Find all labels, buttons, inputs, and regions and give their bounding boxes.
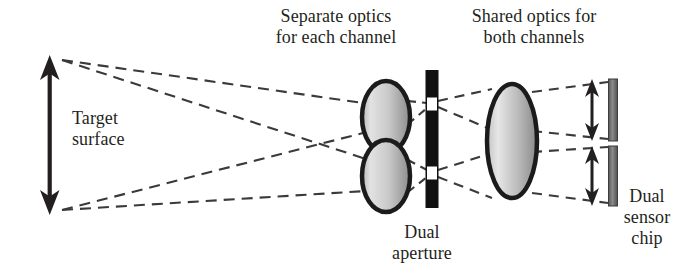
ray-shared-lens-to-sensor-lower-top [532,147,608,152]
ray-slit-upper-to-shared-lens-mid [438,107,492,130]
ray-top-to-upper-lens-top [62,60,363,103]
sensor-extent-arrow-lower [585,146,599,206]
sensor-upper-arrow-shaft [591,86,594,134]
sensor-lower-arrow-shaft [591,153,594,199]
label-target-surface: Target surface [72,108,192,150]
ray-bottom-to-lower-lens-bottom [62,191,366,210]
separate-optics-lens-group [362,81,410,212]
optical-ray-diagram: Separate optics for each channel Shared … [0,0,682,279]
target-surface-arrow [40,55,60,215]
aperture-slit-lower [427,166,438,180]
target-arrow-shaft [48,64,52,206]
ray-bundle-shared-lens-to-sensor [532,82,608,203]
ray-slit-lower-to-shared-lens-mid [438,153,492,170]
ray-slit-upper-to-shared-lens-top [438,89,492,101]
ray-shared-lens-to-sensor-lower-bottom [532,193,608,203]
aperture-slit-upper [427,97,438,111]
ray-slit-lower-to-shared-lens-bottom [438,177,492,198]
ray-shared-lens-to-sensor-upper-bottom [532,131,608,139]
sensor-extent-arrow-upper [585,79,599,141]
label-dual-aperture: Dual aperture [348,222,496,264]
dual-aperture-bar [426,70,439,208]
label-dual-sensor-chip: Dual sensor chip [614,186,680,250]
dual-aperture-assembly [426,70,439,208]
ray-bundle-aperture-to-shared-lens [438,89,492,198]
sensor-bar-upper [609,79,618,141]
separate-optics-lens-lower [362,140,410,212]
shared-optics-lens [487,84,537,198]
label-separate-optics: Separate optics for each channel [238,6,434,48]
label-shared-optics: Shared optics for both channels [436,6,632,48]
ray-shared-lens-to-sensor-upper-top [532,82,608,92]
ray-upper-lens-to-slit-upper-a [408,101,427,103]
